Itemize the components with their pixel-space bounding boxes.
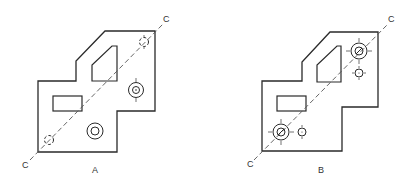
counterbore-hole-bottom-a	[87, 123, 103, 139]
small-hole-top-right-a	[140, 35, 149, 49]
inner-ring-icon	[91, 127, 99, 135]
rectangular-slot-a	[53, 96, 82, 111]
outer-ring-icon	[87, 123, 103, 139]
figure-caption-b: B	[318, 165, 324, 175]
trapezoid-cutout-a	[92, 46, 117, 81]
axis-label-bottom-b: C	[247, 159, 254, 169]
trapezoid-cutout-b	[317, 46, 341, 82]
rectangular-slot-b	[277, 96, 306, 111]
small-hole-bottom-b	[298, 125, 306, 139]
small-hole-right-b	[352, 66, 366, 80]
axis-label-top-a: C	[163, 14, 170, 24]
figure-b: C C B	[247, 14, 395, 175]
figure-caption-a: A	[92, 165, 98, 175]
axis-label-top-b: C	[388, 14, 395, 24]
axis-label-bottom-a: C	[22, 160, 29, 170]
diagonal-centerline-b	[254, 24, 388, 160]
counterbore-hole-right-a	[129, 78, 144, 102]
figure-a: C C A	[22, 14, 170, 175]
technical-drawing-canvas: C C A	[0, 0, 416, 187]
hole-circle-icon	[140, 38, 149, 47]
counterbore-hole-top-right-b	[346, 38, 372, 64]
